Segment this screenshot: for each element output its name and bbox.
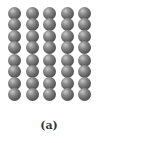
atom-sphere xyxy=(43,88,56,101)
atom-sphere xyxy=(61,41,74,54)
atom-sphere xyxy=(78,88,91,101)
diatomic-molecule xyxy=(43,30,56,54)
diatomic-molecule xyxy=(26,54,39,78)
diatomic-molecule xyxy=(61,7,74,31)
molecule-grid xyxy=(0,0,153,143)
diatomic-molecule xyxy=(8,77,21,101)
diatomic-molecule xyxy=(61,30,74,54)
diatomic-molecule xyxy=(78,77,91,101)
atom-sphere xyxy=(78,41,91,54)
atom-sphere xyxy=(61,88,74,101)
atom-sphere xyxy=(8,88,21,101)
diatomic-molecule xyxy=(8,7,21,31)
diatomic-molecule xyxy=(61,77,74,101)
diatomic-molecule xyxy=(78,30,91,54)
figure-caption: (a) xyxy=(38,119,60,132)
atom-sphere xyxy=(26,88,39,101)
diatomic-molecule xyxy=(26,7,39,31)
atom-sphere xyxy=(43,41,56,54)
diatomic-molecule xyxy=(78,7,91,31)
atom-sphere xyxy=(26,41,39,54)
diatomic-molecule xyxy=(8,30,21,54)
diatomic-molecule xyxy=(43,54,56,78)
diatomic-molecule xyxy=(78,54,91,78)
diatomic-molecule xyxy=(26,77,39,101)
diatomic-molecule xyxy=(43,77,56,101)
atom-sphere xyxy=(8,41,21,54)
diatomic-molecule xyxy=(61,54,74,78)
diatomic-molecule xyxy=(26,30,39,54)
diatomic-molecule xyxy=(43,7,56,31)
diatomic-molecule xyxy=(8,54,21,78)
